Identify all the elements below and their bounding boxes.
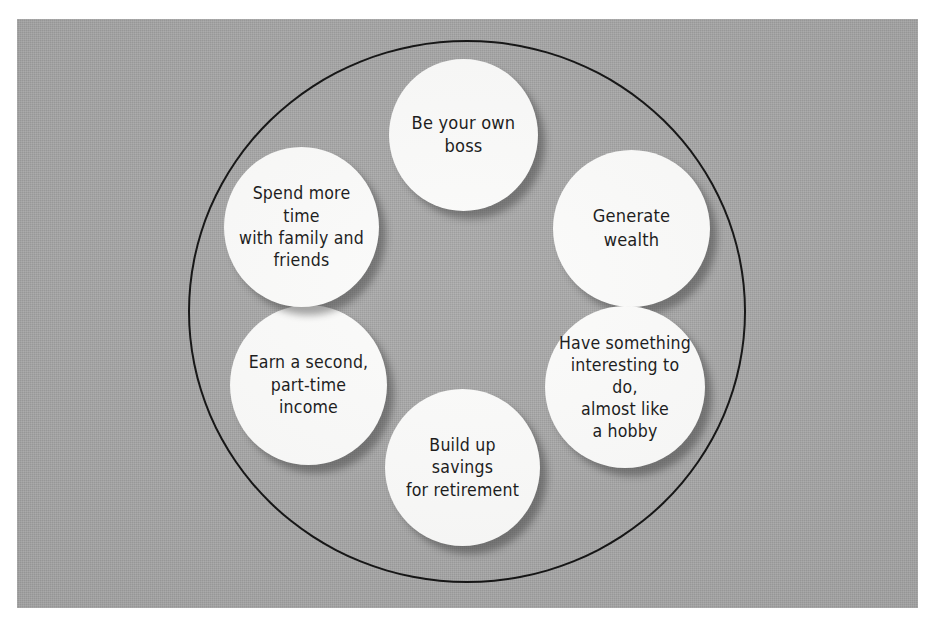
diagram-stage: Be your own boss Generate wealth Have so… <box>17 19 918 608</box>
bubble-label: Have something interesting to do, almost… <box>551 332 700 442</box>
screenshot-canvas: Be your own boss Generate wealth Have so… <box>0 0 942 625</box>
bubble-be-your-own-boss[interactable]: Be your own boss <box>389 59 538 211</box>
diagram-panel: Be your own boss Generate wealth Have so… <box>17 19 918 608</box>
bubble-build-up-savings-for-retirement[interactable]: Build up savings for retirement <box>385 389 540 546</box>
bubble-generate-wealth[interactable]: Generate wealth <box>553 150 710 307</box>
bubble-have-something-interesting-to-do[interactable]: Have something interesting to do, almost… <box>545 306 705 468</box>
bubble-label: Earn a second, part-time income <box>235 351 381 418</box>
bubble-label: Be your own boss <box>394 112 533 158</box>
bubble-label: Generate wealth <box>558 205 704 251</box>
bubble-label: Spend more time with family and friends <box>229 182 373 272</box>
bubble-label: Build up savings for retirement <box>390 434 534 501</box>
bubble-spend-more-time-with-family-and-friends[interactable]: Spend more time with family and friends <box>224 147 379 307</box>
bubble-earn-a-second-part-time-income[interactable]: Earn a second, part-time income <box>230 305 387 465</box>
